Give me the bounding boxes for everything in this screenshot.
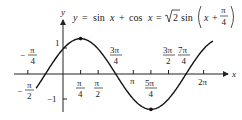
- svg-text:x: x: [147, 12, 153, 23]
- left-paren: [199, 6, 202, 28]
- label-3pi-4: 3π 4: [110, 45, 122, 66]
- svg-text:−: −: [17, 86, 22, 96]
- svg-text:4: 4: [31, 56, 36, 66]
- svg-text:2: 2: [173, 12, 178, 23]
- svg-text:y: y: [72, 12, 78, 23]
- right-paren: [231, 6, 234, 28]
- svg-text:=: =: [156, 12, 162, 23]
- svg-text:x: x: [109, 12, 115, 23]
- svg-text:+: +: [212, 12, 218, 23]
- svg-text:x: x: [203, 12, 209, 23]
- max-point: [79, 37, 83, 41]
- y-tick-label-neg1: −1: [47, 94, 57, 104]
- svg-text:4: 4: [182, 56, 187, 66]
- label-3pi-2: 3π 2: [163, 45, 175, 66]
- svg-text:cos: cos: [129, 12, 142, 23]
- svg-text:sin: sin: [93, 12, 105, 23]
- svg-text:3π: 3π: [163, 45, 173, 55]
- graph-figure: x y 1 −1 − π 2 π 4 π 2 π 5π 4 2π − π: [0, 0, 242, 120]
- y-tick-label-1: 1: [55, 38, 60, 48]
- svg-text:3π: 3π: [110, 45, 120, 55]
- svg-text:π: π: [30, 45, 35, 55]
- svg-text:sin: sin: [181, 12, 193, 23]
- svg-text:4: 4: [222, 17, 227, 27]
- x-tick-label-pi-2: π 2: [94, 78, 103, 99]
- svg-text:4: 4: [78, 89, 83, 99]
- label-7pi-4: 7π 4: [178, 45, 190, 66]
- svg-text:2: 2: [96, 89, 101, 99]
- svg-text:π: π: [27, 80, 32, 90]
- svg-text:2: 2: [166, 56, 171, 66]
- svg-text:+: +: [119, 12, 125, 23]
- x-tick-label-2pi: 2π: [198, 77, 208, 87]
- svg-text:4: 4: [114, 56, 119, 66]
- svg-text:π: π: [77, 78, 82, 88]
- x-axis-label: x: [231, 69, 236, 79]
- svg-text:=: =: [82, 12, 88, 23]
- x-tick-label-pi-4: π 4: [76, 78, 85, 99]
- svg-text:π: π: [221, 5, 226, 15]
- min-point: [149, 108, 153, 112]
- svg-text:7π: 7π: [178, 45, 188, 55]
- x-tick-label-pi: π: [130, 76, 135, 86]
- x-tick-label-5pi-4: 5π 4: [145, 78, 157, 99]
- x-tick-label-neg-pi-2: − π 2: [17, 80, 34, 101]
- label-neg-pi-4: − π 4: [20, 45, 37, 66]
- y-axis-label: y: [60, 7, 65, 17]
- svg-text:2: 2: [27, 91, 32, 101]
- equation: y = sin x + cos x = 2 sin x + π 4: [72, 5, 234, 28]
- svg-text:5π: 5π: [145, 78, 155, 88]
- svg-text:4: 4: [149, 89, 154, 99]
- svg-text:π: π: [95, 78, 100, 88]
- svg-text:−: −: [20, 50, 25, 60]
